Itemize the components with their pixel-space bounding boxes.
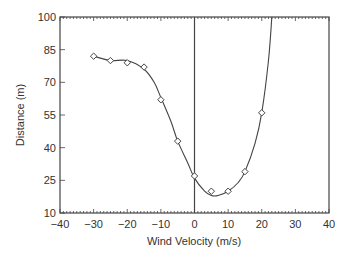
x-tick-label: −20 bbox=[118, 218, 137, 230]
data-point-marker bbox=[242, 168, 248, 174]
y-tick-label: 55 bbox=[44, 109, 56, 121]
data-point-marker bbox=[225, 188, 231, 194]
plot-area bbox=[90, 17, 271, 213]
data-point-marker bbox=[208, 188, 214, 194]
x-tick-label: −10 bbox=[152, 218, 171, 230]
x-tick-label: 40 bbox=[323, 218, 335, 230]
chart: −40−30−20−10010203040102540557085100 Win… bbox=[0, 0, 352, 258]
data-point-marker bbox=[174, 138, 180, 144]
y-tick-label: 10 bbox=[44, 207, 56, 219]
data-point-marker bbox=[259, 110, 265, 116]
x-tick-label: 10 bbox=[222, 218, 234, 230]
y-tick-label: 85 bbox=[44, 44, 56, 56]
axis-ticks: −40−30−20−10010203040102540557085100 bbox=[38, 11, 335, 230]
y-tick-label: 25 bbox=[44, 174, 56, 186]
x-tick-label: 30 bbox=[289, 218, 301, 230]
y-tick-label: 40 bbox=[44, 142, 56, 154]
data-point-marker bbox=[141, 64, 147, 70]
x-tick-label: 20 bbox=[256, 218, 268, 230]
y-tick-label: 70 bbox=[44, 76, 56, 88]
x-tick-label: −40 bbox=[51, 218, 70, 230]
y-tick-label: 100 bbox=[38, 11, 56, 23]
x-tick-label: −30 bbox=[84, 218, 103, 230]
data-point-marker bbox=[90, 53, 96, 59]
x-axis-label: Wind Velocity (m/s) bbox=[147, 235, 241, 247]
data-point-marker bbox=[107, 57, 113, 63]
x-tick-label: 0 bbox=[191, 218, 197, 230]
y-axis-label: Distance (m) bbox=[14, 84, 26, 146]
